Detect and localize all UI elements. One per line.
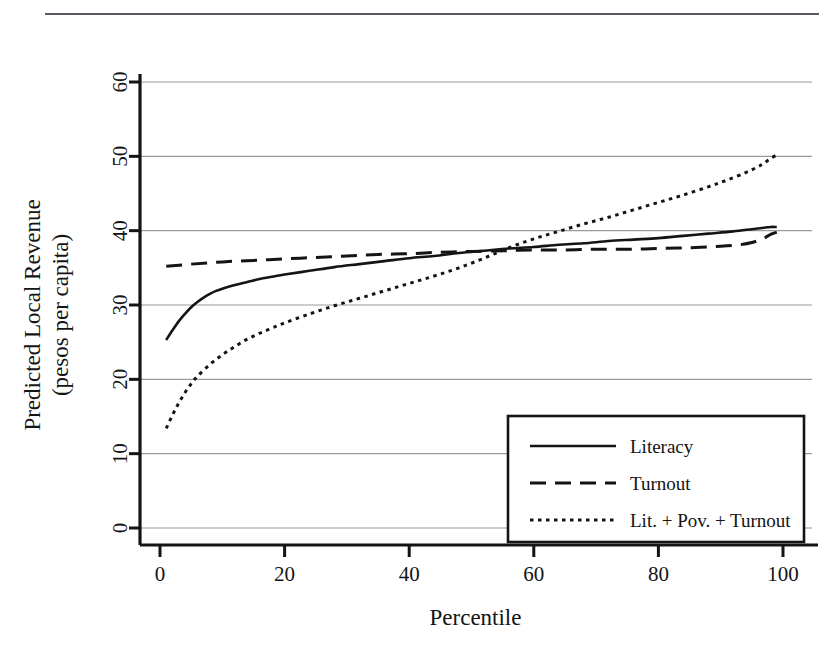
series-line-lit-pov-turnout <box>166 155 777 429</box>
y-tick-label-20: 20 <box>108 369 132 390</box>
series-line-literacy <box>166 227 777 340</box>
series-group <box>166 155 777 429</box>
x-tick-label-0: 0 <box>155 562 166 586</box>
x-tick-label-20: 20 <box>274 562 295 586</box>
y-tick-label-30: 30 <box>108 295 132 316</box>
y-tick-label-40: 40 <box>108 220 132 241</box>
chart-plot: 0102030405060 020406080100 PercentilePre… <box>0 0 840 653</box>
y-tick-label-0: 0 <box>108 523 132 534</box>
y-tick-label-50: 50 <box>108 146 132 167</box>
y-tick-group: 0102030405060 <box>108 72 140 534</box>
series-line-turnout <box>166 232 777 266</box>
y-axis-title-line2: (pesos per capita) <box>48 234 73 396</box>
y-tick-label-10: 10 <box>108 443 132 464</box>
x-tick-label-80: 80 <box>648 562 669 586</box>
y-tick-label-60: 60 <box>108 72 132 93</box>
axis-label-group: PercentilePredicted Local Revenue(pesos … <box>20 199 521 630</box>
x-tick-label-60: 60 <box>523 562 544 586</box>
x-axis-title: Percentile <box>430 605 522 630</box>
legend-label-2: Lit. + Pov. + Turnout <box>630 510 791 531</box>
legend-label-0: Literacy <box>630 436 694 457</box>
figure-container: 0102030405060 020406080100 PercentilePre… <box>0 0 840 653</box>
y-axis-title-line1: Predicted Local Revenue <box>20 199 45 430</box>
x-tick-label-100: 100 <box>767 562 799 586</box>
legend-box[interactable]: LiteracyTurnoutLit. + Pov. + Turnout <box>508 416 804 542</box>
legend-label-1: Turnout <box>630 473 691 494</box>
x-tick-label-40: 40 <box>399 562 420 586</box>
x-tick-group: 020406080100 <box>155 545 799 586</box>
